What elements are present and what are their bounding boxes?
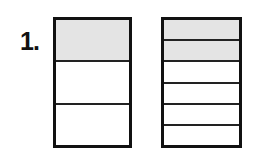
shaded-segment	[56, 20, 129, 62]
unshaded-segment	[56, 105, 129, 145]
problem-number: 1.	[20, 29, 39, 54]
unshaded-segment	[56, 62, 129, 104]
fraction-bar-thirds	[53, 17, 132, 148]
unshaded-segment	[164, 84, 239, 105]
unshaded-segment	[164, 62, 239, 83]
shaded-segment	[164, 41, 239, 62]
unshaded-segment	[164, 105, 239, 126]
shaded-segment	[164, 20, 239, 41]
unshaded-segment	[164, 126, 239, 145]
fraction-bar-sixths	[161, 17, 242, 148]
